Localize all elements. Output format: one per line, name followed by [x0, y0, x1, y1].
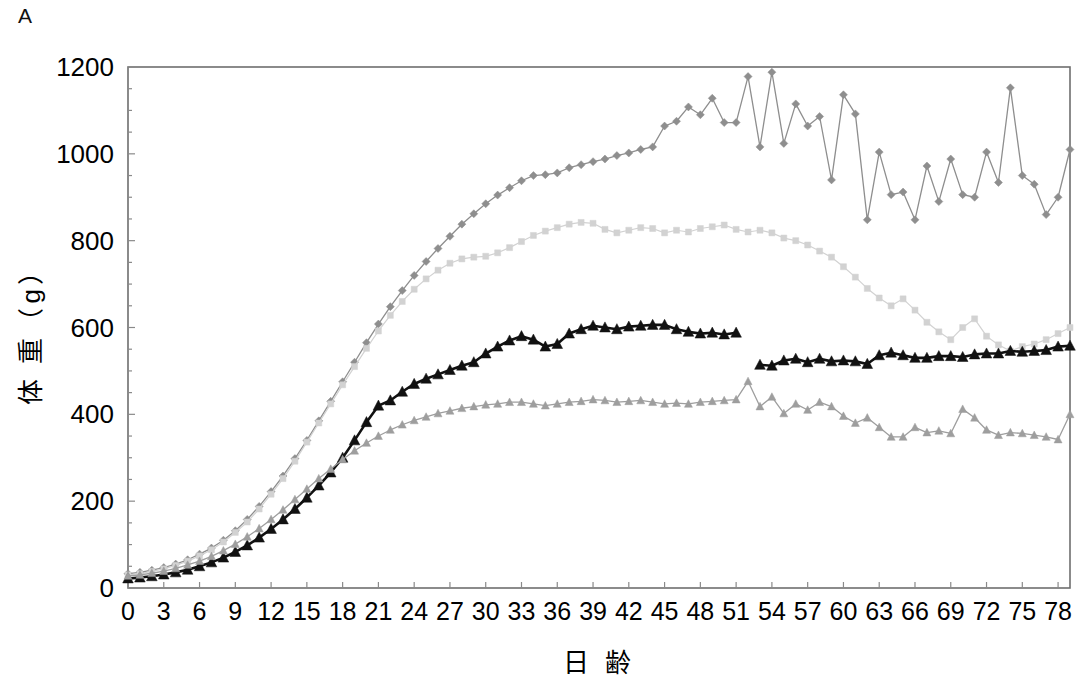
y-axis-title: 体 重（g） [16, 255, 46, 405]
series-marker [255, 524, 263, 532]
series-marker [732, 119, 740, 127]
series-marker [814, 353, 825, 363]
series-marker [840, 264, 846, 270]
series-marker [709, 224, 715, 230]
x-tick-label: 12 [257, 597, 285, 625]
series-marker [480, 348, 491, 358]
series-marker [471, 254, 477, 260]
series-marker [1055, 331, 1061, 337]
series-marker [625, 149, 633, 157]
series-marker [875, 148, 883, 156]
x-tick-label: 30 [472, 597, 500, 625]
series-marker [244, 519, 250, 525]
series-marker [292, 458, 298, 464]
x-tick-label: 51 [722, 597, 750, 625]
x-tick-label: 75 [1008, 597, 1036, 625]
series-marker [506, 184, 514, 192]
series-marker [720, 119, 728, 127]
series-marker [959, 405, 967, 413]
series-marker [362, 439, 370, 447]
growth-curve-figure: A 020040060080010001200 0369121518212427… [0, 0, 1087, 684]
series-marker [936, 329, 942, 335]
series-marker [935, 427, 943, 435]
series-marker [602, 226, 608, 232]
x-tick-label: 48 [686, 597, 714, 625]
x-tick-label: 57 [794, 597, 822, 625]
series-marker [959, 191, 967, 199]
x-tick-label: 42 [615, 597, 643, 625]
y-tick-label: 0 [100, 573, 114, 603]
series-marker [781, 235, 787, 241]
series-marker [565, 164, 573, 172]
series-marker [1054, 193, 1062, 201]
series-marker [529, 172, 537, 180]
series-marker [911, 216, 919, 224]
series-marker [816, 398, 824, 406]
series-marker [530, 232, 536, 238]
x-tick-label: 0 [121, 597, 135, 625]
series-marker [828, 176, 836, 184]
weight-vs-age-line-chart: 020040060080010001200 036912151821242730… [0, 0, 1087, 684]
series-marker [768, 68, 776, 76]
series-marker [994, 178, 1002, 186]
series-marker [219, 546, 227, 554]
series-marker [972, 316, 978, 322]
y-tick-label: 600 [71, 313, 114, 343]
series-marker [744, 377, 752, 385]
x-tick-label: 54 [758, 597, 786, 625]
series-marker [517, 177, 525, 185]
series-marker [577, 161, 585, 169]
series-marker [363, 345, 369, 351]
series-marker [375, 328, 381, 334]
x-tick-label: 21 [364, 597, 392, 625]
series-marker [542, 228, 548, 234]
series-marker [387, 312, 393, 318]
x-tick-label: 63 [865, 597, 893, 625]
series-marker [232, 529, 238, 535]
series-marker [447, 260, 453, 266]
series-marker [899, 188, 907, 196]
series-marker [839, 91, 847, 99]
series-marker [1066, 410, 1074, 418]
series-marker [757, 227, 763, 233]
x-tick-label: 33 [508, 597, 536, 625]
series-marker [721, 222, 727, 228]
series-marker [971, 414, 979, 422]
series-marker [220, 539, 226, 545]
series-marker [553, 169, 561, 177]
series-marker [662, 230, 668, 236]
series-marker [516, 331, 527, 341]
series-marker [983, 148, 991, 156]
y-axis-title-group: 体 重（g） [16, 255, 46, 405]
series-marker [756, 143, 764, 151]
series-marker [601, 155, 609, 163]
chart-series [124, 377, 1074, 579]
x-tick-label: 36 [543, 597, 571, 625]
series-marker [626, 227, 632, 233]
series-marker [589, 158, 597, 166]
series-marker [935, 198, 943, 206]
series-marker [971, 193, 979, 201]
series-marker [733, 226, 739, 232]
series-marker [316, 420, 322, 426]
series-marker [340, 382, 346, 388]
series-marker [1006, 84, 1014, 92]
series-marker [1067, 325, 1073, 331]
series-marker [207, 552, 215, 560]
series-marker [613, 152, 621, 160]
series-marker [507, 245, 513, 251]
series-marker [614, 230, 620, 236]
series-marker [374, 432, 382, 440]
x-tick-label: 66 [901, 597, 929, 625]
series-marker [423, 276, 429, 282]
y-tick-label: 200 [71, 486, 114, 516]
chart-series [125, 219, 1073, 578]
series-marker [518, 239, 524, 245]
series-marker [984, 333, 990, 339]
series-marker [863, 414, 871, 422]
series-marker [829, 254, 835, 260]
series-marker [804, 406, 812, 414]
x-tick-label: 15 [293, 597, 321, 625]
series-marker [887, 191, 895, 199]
series-marker [649, 143, 657, 151]
